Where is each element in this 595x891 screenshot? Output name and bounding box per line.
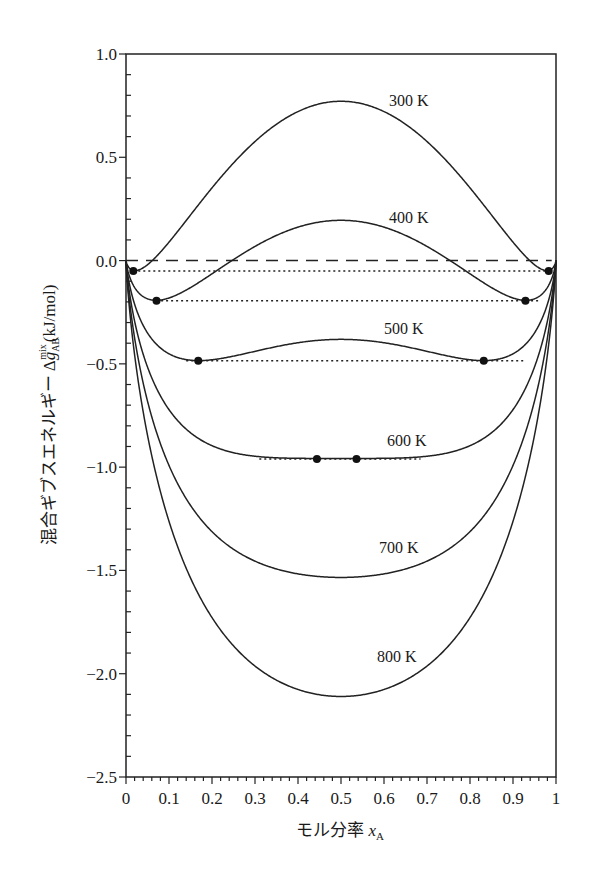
curve-800k <box>126 261 556 697</box>
plot-frame <box>126 54 556 777</box>
binodal-point <box>129 267 137 275</box>
curve-label-700k: 700 K <box>379 539 419 556</box>
binodal-point <box>545 267 553 275</box>
x-tick-label: 0 <box>122 789 131 808</box>
x-tick-label: 0.4 <box>287 789 309 808</box>
x-tick-label: 0.2 <box>201 789 222 808</box>
curve-500k <box>126 261 556 361</box>
x-tick-label: 0.3 <box>244 789 265 808</box>
y-tick-label: 0.5 <box>96 148 117 167</box>
binodal-points <box>129 267 552 463</box>
y-tick-label: −1.0 <box>86 458 117 477</box>
binodal-point <box>521 297 529 305</box>
curve-labels: 300 K400 K500 K600 K700 K800 K <box>377 92 429 665</box>
curve-label-300k: 300 K <box>389 92 429 109</box>
common-tangent-lines <box>133 271 548 459</box>
curve-label-500k: 500 K <box>384 320 424 337</box>
x-axis-title: モル分率 xA <box>296 821 384 842</box>
curve-label-600k: 600 K <box>387 432 427 449</box>
gibbs-mixing-chart: 00.10.20.30.40.50.60.70.80.91 1.00.50.0−… <box>0 0 595 891</box>
binodal-point <box>352 455 360 463</box>
y-tick-label: −2.0 <box>86 665 117 684</box>
curve-label-800k: 800 K <box>377 648 417 665</box>
y-axis-title: 混合ギブスエネルギー ΔgABmix(kJ/mol) <box>37 285 61 546</box>
x-tick-label: 0.6 <box>373 789 394 808</box>
curves <box>126 101 556 696</box>
x-tick-label: 0.9 <box>502 789 523 808</box>
binodal-point <box>153 297 161 305</box>
x-tick-label: 0.7 <box>416 789 438 808</box>
axis-ticks <box>119 54 556 784</box>
binodal-point <box>480 357 488 365</box>
y-tick-label: 0.0 <box>96 252 117 271</box>
x-tick-label: 0.1 <box>158 789 179 808</box>
x-tick-label: 0.5 <box>330 789 351 808</box>
binodal-point <box>313 455 321 463</box>
y-tick-label: −2.5 <box>86 768 117 787</box>
x-tick-label: 1 <box>552 789 561 808</box>
binodal-point <box>194 357 202 365</box>
y-tick-label: −1.5 <box>86 561 117 580</box>
svg-text:混合ギブスエネルギー ΔgABmix(kJ/mol): 混合ギブスエネルギー ΔgABmix(kJ/mol) <box>37 285 61 546</box>
y-tick-label: 1.0 <box>96 45 117 64</box>
y-tick-labels: 1.00.50.0−0.5−1.0−1.5−2.0−2.5 <box>86 45 117 787</box>
curve-label-400k: 400 K <box>389 209 429 226</box>
x-tick-label: 0.8 <box>459 789 480 808</box>
y-tick-label: −0.5 <box>86 355 117 374</box>
curve-300k <box>126 101 556 270</box>
x-tick-labels: 00.10.20.30.40.50.60.70.80.91 <box>122 789 561 808</box>
curve-700k <box>126 261 556 578</box>
